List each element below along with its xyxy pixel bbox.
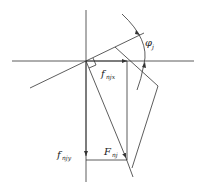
label-fx: f njx [100,68,116,81]
svg-text:φ: φ [145,37,152,48]
svg-text:nj: nj [112,151,118,159]
svg-text:njy: njy [62,154,72,162]
svg-text:F: F [103,146,112,157]
right-angle-marker [89,58,96,68]
label-fy: f njy [56,149,72,162]
angle-arc [122,14,145,90]
tool-outline [115,47,158,168]
svg-text:njx: njx [106,73,116,81]
arc-arrowhead-top [135,30,140,35]
label-F: F nj [103,146,118,159]
label-angle: φ j [145,37,154,51]
force-diagram: φ j f njx f njy F nj [0,0,201,191]
